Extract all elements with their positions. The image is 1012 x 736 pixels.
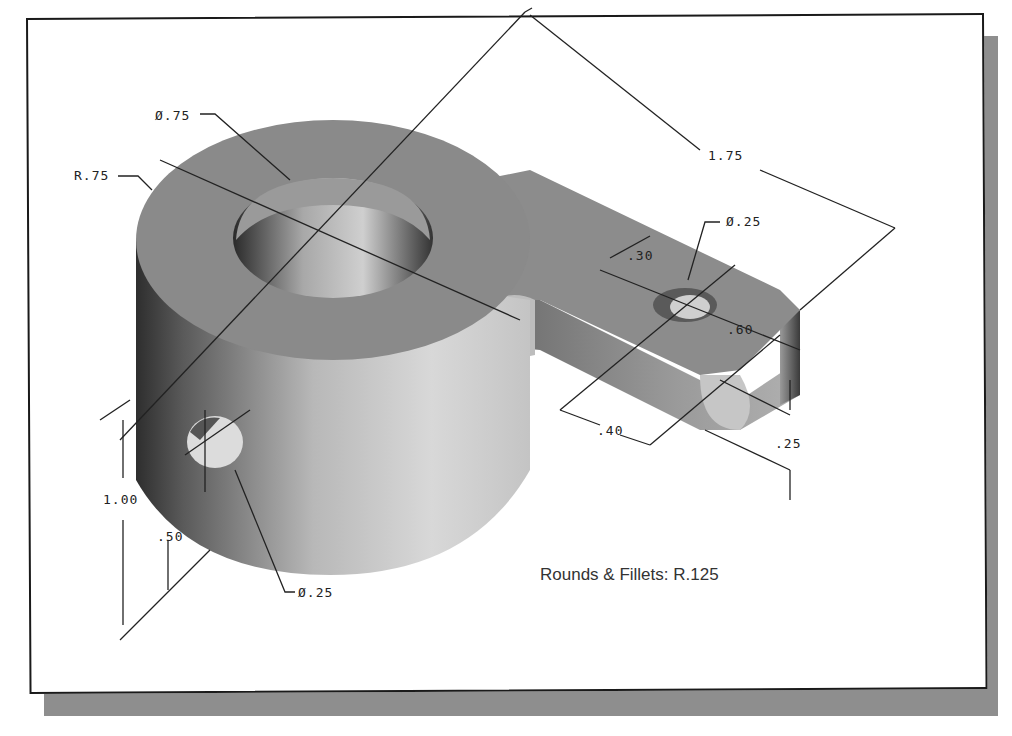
arm-length-label: 1.75 <box>708 148 743 163</box>
cylinder-boss <box>136 120 530 575</box>
side-hole <box>187 416 243 468</box>
boss-height-label: 1.00 <box>103 492 138 507</box>
part-drawing: Ø.75 R.75 1.75 Ø.25 .30 .60 .40 .25 1.00… <box>0 0 1012 736</box>
rounds-fillets-note: Rounds & Fillets: R.125 <box>540 565 719 585</box>
side-hole-diameter-label: Ø.25 <box>298 585 333 600</box>
arm-thickness-label: .25 <box>775 436 801 451</box>
side-hole-height-label: .50 <box>157 529 183 544</box>
bore-diameter-label: Ø.75 <box>155 108 190 123</box>
arm-hole-offset-label: .30 <box>627 248 653 263</box>
boss-radius-label: R.75 <box>74 168 109 183</box>
arm-hole-diameter-label: Ø.25 <box>726 214 761 229</box>
arm-hole-from-end-label: .40 <box>597 423 623 438</box>
arm-width-label: .60 <box>727 322 753 337</box>
